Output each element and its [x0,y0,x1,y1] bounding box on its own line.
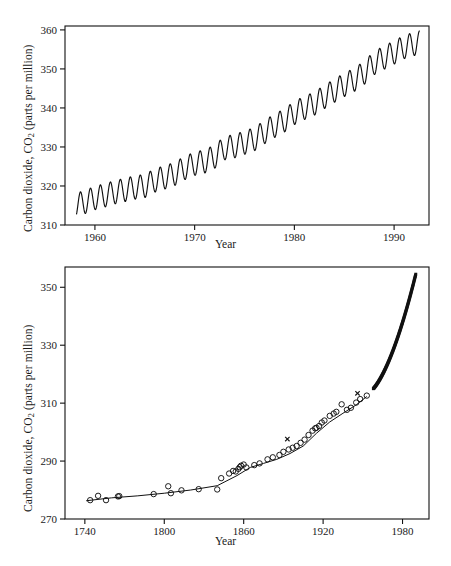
y-tick-label: 330 [41,339,58,351]
outlier-x-marker [285,437,289,441]
ice-core-open-circle-marker [357,396,362,401]
chart-panel-ice-core-plus-mauna-loa: 17401800186019201980270290310330350 [0,258,451,566]
ice-core-open-circle-marker [265,457,270,462]
ice-core-open-circle-marker [95,493,100,498]
y-axis-label-top-suffix: (parts per million) [22,44,34,133]
ice-core-open-circle-marker [302,437,307,442]
y-tick-label: 350 [41,63,58,75]
y-tick-label: 340 [41,102,58,114]
y-tick-label: 350 [41,281,58,293]
ice-core-open-circle-marker [257,461,262,466]
plot-frame [65,267,429,519]
y-tick-label: 310 [41,219,58,231]
ice-core-open-circle-marker [252,462,257,467]
ice-core-open-circle-marker [218,475,223,480]
outlier-x-marker [355,391,359,395]
y-tick-label: 270 [41,513,58,525]
modern-filled-square-marker [414,273,417,276]
y-tick-label: 360 [41,24,58,36]
ice-core-open-circle-marker [306,432,311,437]
y-tick-label: 330 [41,141,58,153]
plot-frame [65,26,429,225]
ice-core-open-circle-marker [364,393,369,398]
y-axis-label-bottom-suffix: (parts per million) [22,324,34,413]
ice-core-open-circle-marker [237,464,242,469]
x-axis-label-top: Year [0,238,451,250]
y-axis-label-bottom-prefix: Carbon dioxide, CO [22,417,34,512]
ice-core-open-circle-marker [339,402,344,407]
y-axis-label-bottom: Carbon dioxide, CO2 (parts per million) [22,324,36,512]
ice-core-open-circle-marker [179,488,184,493]
ice-core-open-circle-marker [166,484,171,489]
ice-core-open-circle-marker [215,487,220,492]
y-tick-label: 310 [41,397,58,409]
ice-core-plot: 17401800186019201980270290310330350 [0,258,451,566]
co2-monthly-sawtooth-line [76,31,419,215]
y-axis-label-bottom-subscript: 2 [27,413,36,417]
y-tick-label: 320 [41,180,58,192]
chart-panel-mauna-loa-monthly: 1960197019801990310320330340350360 [0,0,451,260]
mauna-loa-monthly-plot: 1960197019801990310320330340350360 [0,0,451,260]
ice-core-marker-group [87,393,369,503]
ice-core-open-circle-marker [226,471,231,476]
outlier-marker-group [285,391,360,441]
y-axis-label-top: Carbon dioxide, CO2 (parts per million) [22,44,36,232]
ice-core-open-circle-marker [168,491,173,496]
y-tick-label: 290 [41,455,58,467]
modern-record-marker-group [372,273,417,390]
y-axis-label-top-subscript: 2 [27,133,36,137]
ice-core-open-circle-marker [270,455,275,460]
co2-figure: 1960197019801990310320330340350360 Carbo… [0,0,451,566]
x-axis-label-bottom: Year [0,535,451,547]
y-axis-label-top-prefix: Carbon dioxide, CO [22,137,34,232]
ice-core-open-circle-marker [281,449,286,454]
ice-core-fit-curve [86,396,367,500]
